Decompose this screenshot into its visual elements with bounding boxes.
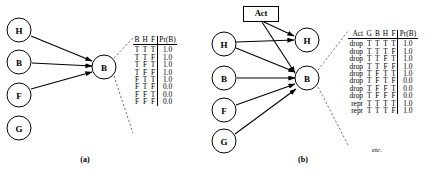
node-label-b-child-h: H: [303, 36, 310, 46]
cell-g: T: [365, 107, 373, 114]
panel-caption-a: (a): [70, 155, 100, 164]
edge-bh-to-child-b: [236, 48, 295, 72]
node-label-a-parent-f: F: [16, 91, 22, 101]
col-header-h: H: [381, 30, 389, 38]
cell-h: F: [141, 98, 149, 105]
edge-b-to-b: [32, 63, 92, 66]
panel-a-edges: [31, 36, 92, 89]
panel-b-act-edges: [262, 22, 295, 73]
cpt-table-panel-b: Act G B H F Pr(B) drop T T T T 1.0 drop …: [348, 30, 418, 114]
col-header-b: B: [373, 30, 381, 38]
node-label-a-parent-h: H: [15, 26, 22, 36]
callout-line-bottom: [114, 76, 133, 133]
node-label-a-parent-b: B: [16, 58, 22, 68]
node-label-b-parent-h: H: [220, 40, 227, 50]
cell-act: repr: [348, 107, 365, 114]
node-label-b-child-b: B: [304, 74, 310, 84]
panel-b-callout: [318, 31, 348, 145]
panel-b-nodes: H B F G H B: [212, 28, 319, 153]
panel-a-nodes: H B F G B: [7, 18, 116, 140]
edge-h-to-b: [31, 36, 92, 61]
cell-b: F: [133, 98, 141, 105]
node-label-a-child-b: B: [101, 63, 107, 73]
node-label-a-node-g: G: [15, 124, 22, 134]
edge-bf-to-child-b: [236, 84, 295, 105]
node-circle-a-parent-h: [7, 18, 31, 42]
callout-line-bottom-b: [318, 87, 348, 145]
panel-b-edges: [235, 40, 296, 134]
callout-line-top: [114, 38, 133, 58]
node-circle-b-parent-f: [212, 98, 236, 122]
edge-act-to-b: [262, 22, 295, 73]
col-header-act: Act: [348, 30, 365, 38]
node-label-b-parent-f: F: [221, 106, 227, 116]
edge-bg-to-child-b: [235, 89, 296, 134]
node-circle-b-child-h: [295, 28, 319, 52]
edge-bh-to-child-h: [236, 40, 294, 42]
col-header-prb: Pr(B): [157, 36, 177, 44]
action-node-act: Act: [243, 6, 279, 22]
node-label-b-parent-g: G: [220, 137, 227, 147]
col-header-f: F: [149, 36, 157, 44]
cell-b: T: [373, 107, 381, 114]
panel-caption-b: (b): [288, 155, 318, 164]
node-circle-b-parent-g: [212, 129, 236, 153]
node-circle-a-node-g: [7, 116, 31, 140]
edge-f-to-b: [31, 72, 92, 89]
cell-prb: 0.0: [157, 98, 177, 105]
node-circle-a-child-b: [92, 55, 116, 79]
figure-container: H B F G B: [0, 0, 431, 173]
col-header-b: B: [133, 36, 141, 44]
col-header-f: F: [390, 30, 398, 38]
col-header-h: H: [141, 36, 149, 44]
node-circle-b-parent-h: [212, 32, 236, 56]
node-circle-b-child-b: [295, 66, 319, 90]
node-label-b-parent-b: B: [221, 74, 227, 84]
cell-f: F: [390, 107, 398, 114]
table-header-row: B H F Pr(B): [133, 36, 177, 44]
col-header-g: G: [365, 30, 373, 38]
panel-a-callout: [114, 38, 133, 133]
cell-h: T: [381, 107, 389, 114]
table-row: repr T T T F 1.0: [348, 107, 418, 114]
cell-f: F: [149, 98, 157, 105]
table-row: F F F 0.0: [133, 98, 177, 105]
table-header-row: Act G B H F Pr(B): [348, 30, 418, 38]
node-circle-a-parent-b: [7, 50, 31, 74]
cpt-table-panel-a: B H F Pr(B) T T T 1.0 T T F 1.0 T F: [133, 36, 177, 106]
edge-act-to-h: [264, 22, 294, 36]
col-header-prb: Pr(B): [398, 30, 418, 38]
node-circle-b-parent-b: [212, 66, 236, 90]
node-circle-a-parent-f: [7, 83, 31, 107]
table-continuation-label: etc.: [372, 146, 382, 154]
callout-line-top-b: [318, 31, 348, 70]
cell-prb: 1.0: [398, 107, 418, 114]
